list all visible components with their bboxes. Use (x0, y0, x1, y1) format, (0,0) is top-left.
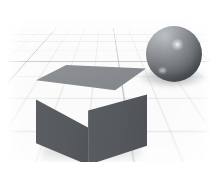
cube-top-face (36, 65, 146, 105)
sphere-body (146, 26, 202, 82)
3d-scene-viewport (8, 7, 210, 162)
sphere-object (139, 23, 205, 89)
sphere-bounce-highlight (159, 68, 166, 73)
rendered-figure (0, 0, 218, 182)
cube-object (36, 65, 146, 162)
